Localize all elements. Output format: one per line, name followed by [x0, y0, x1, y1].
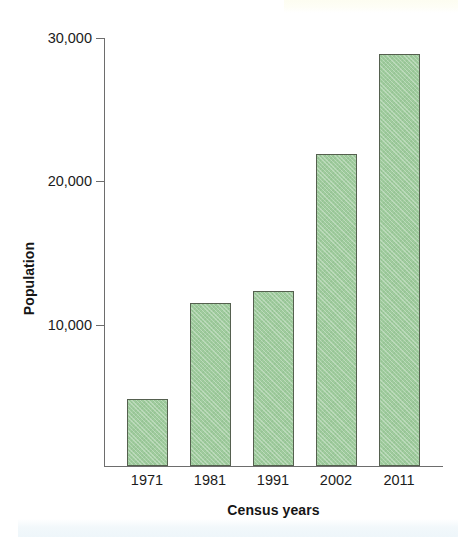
page-scan-band-bottom [18, 519, 458, 537]
population-bar-chart: Population 30,000 20,000 10,000 1971 198… [0, 0, 458, 537]
x-tick-label-1971: 1971 [112, 472, 182, 488]
y-axis-tick-labels: 30,000 20,000 10,000 [0, 0, 92, 537]
x-tick-label-1991: 1991 [238, 472, 308, 488]
x-tick-label-1981: 1981 [175, 472, 245, 488]
y-tick-mark-20000 [96, 181, 104, 182]
bar-2011 [379, 54, 420, 466]
plot-area: 1971 1981 1991 2002 2011 [104, 0, 443, 537]
bar-1981 [190, 303, 231, 466]
y-tick-label-30000: 30,000 [8, 30, 92, 46]
y-tick-mark-30000 [96, 38, 104, 39]
x-tick-label-2002: 2002 [301, 472, 371, 488]
x-tick-label-2011: 2011 [364, 472, 434, 488]
bar-1971 [127, 399, 168, 466]
y-tick-label-10000: 10,000 [8, 317, 92, 333]
y-tick-mark-10000 [96, 325, 104, 326]
bar-1991 [253, 291, 294, 466]
x-axis-title: Census years [104, 502, 443, 518]
y-tick-label-20000: 20,000 [8, 173, 92, 189]
bar-2002 [316, 154, 357, 466]
